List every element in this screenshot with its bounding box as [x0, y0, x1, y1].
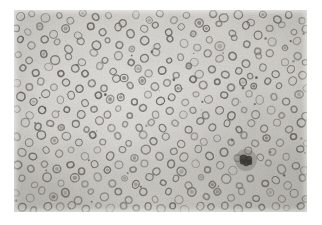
- erythrocyte: [241, 58, 252, 69]
- erythrocyte: [90, 106, 98, 113]
- erythrocyte: [215, 54, 225, 63]
- erythrocyte-stain: [51, 195, 55, 199]
- erythrocyte: [243, 40, 251, 48]
- erythrocyte: [40, 13, 50, 23]
- erythrocyte: [61, 131, 71, 140]
- erythrocyte: [259, 63, 267, 71]
- erythrocyte: [93, 146, 102, 154]
- erythrocyte: [43, 173, 52, 182]
- erythrocyte: [26, 83, 33, 90]
- erythrocyte: [227, 138, 235, 146]
- platelet-speck: [88, 159, 90, 161]
- erythrocyte-stain: [179, 169, 183, 174]
- erythrocyte: [37, 105, 46, 114]
- erythrocyte: [158, 66, 166, 74]
- erythrocyte: [14, 132, 21, 142]
- erythrocyte: [231, 97, 240, 107]
- erythrocyte: [104, 202, 116, 212]
- erythrocyte: [57, 70, 65, 78]
- erythrocyte: [143, 90, 152, 99]
- erythrocyte: [220, 91, 228, 98]
- erythrocyte: [115, 188, 122, 195]
- erythrocyte: [176, 139, 186, 149]
- erythrocyte-stain: [63, 191, 67, 195]
- erythrocyte: [160, 179, 167, 186]
- platelet-speck: [201, 109, 202, 110]
- erythrocyte: [133, 205, 139, 211]
- platelet-speck: [255, 76, 258, 79]
- erythrocyte: [173, 72, 180, 78]
- platelet-speck: [240, 101, 241, 102]
- platelet-speck: [279, 205, 280, 206]
- erythrocyte: [94, 91, 102, 99]
- erythrocyte: [40, 35, 50, 44]
- erythrocyte: [191, 133, 198, 141]
- erythrocyte: [36, 130, 46, 140]
- erythrocyte: [282, 98, 290, 106]
- erythrocyte: [74, 84, 84, 94]
- erythrocyte: [67, 91, 75, 100]
- erythrocyte: [145, 173, 154, 182]
- erythrocyte: [78, 168, 84, 175]
- erythrocyte: [207, 123, 217, 133]
- erythrocyte: [161, 132, 171, 142]
- figure-page: Light microscopy photomicrograph of a pe…: [0, 0, 322, 225]
- erythrocyte: [99, 139, 106, 146]
- erythrocyte: [238, 187, 245, 195]
- erythrocyte-stain: [217, 44, 222, 49]
- erythrocyte: [49, 83, 58, 92]
- erythrocyte: [251, 110, 260, 119]
- erythrocyte: [31, 69, 40, 77]
- erythrocyte: [165, 187, 173, 195]
- erythrocyte: [207, 203, 215, 211]
- platelet-speck: [91, 201, 93, 203]
- erythrocyte-stain: [141, 79, 144, 83]
- erythrocyte: [277, 194, 286, 203]
- erythrocyte: [115, 105, 121, 112]
- erythrocyte-stain: [211, 183, 214, 186]
- erythrocyte: [138, 103, 147, 112]
- erythrocyte: [93, 172, 103, 183]
- erythrocyte: [258, 203, 266, 211]
- platelet-speck: [15, 199, 18, 202]
- erythrocyte: [179, 204, 190, 212]
- erythrocyte: [18, 174, 26, 182]
- erythrocyte-stain: [130, 47, 133, 50]
- erythrocyte: [276, 163, 287, 174]
- erythrocyte: [297, 146, 305, 153]
- erythrocyte: [98, 28, 107, 37]
- erythrocyte: [152, 111, 159, 119]
- erythrocyte: [156, 204, 166, 212]
- platelet-speck: [218, 186, 219, 187]
- erythrocyte: [37, 77, 45, 85]
- erythrocyte: [150, 81, 161, 92]
- erythrocyte: [53, 38, 61, 46]
- erythrocyte: [42, 146, 51, 155]
- platelet-speck: [254, 103, 256, 105]
- erythrocyte: [284, 125, 293, 134]
- erythrocyte: [214, 79, 220, 85]
- erythrocyte: [88, 131, 96, 140]
- erythrocyte: [87, 79, 97, 89]
- erythrocyte: [21, 118, 30, 127]
- erythrocyte-stain: [148, 19, 152, 22]
- erythrocyte: [16, 35, 24, 43]
- erythrocyte: [114, 160, 123, 169]
- erythrocyte: [155, 10, 164, 18]
- erythrocyte: [30, 181, 38, 189]
- erythrocyte-stain: [265, 136, 268, 140]
- erythrocyte-group: [14, 10, 307, 212]
- erythrocyte: [271, 70, 279, 78]
- erythrocyte: [130, 167, 137, 173]
- erythrocyte: [63, 106, 70, 113]
- erythrocyte: [281, 58, 289, 66]
- erythrocyte: [145, 69, 153, 77]
- erythrocyte-stain: [81, 11, 84, 14]
- erythrocyte: [140, 144, 151, 155]
- erythrocyte: [28, 152, 37, 161]
- erythrocyte: [77, 58, 87, 67]
- erythrocyte: [247, 175, 254, 182]
- erythrocyte: [222, 202, 229, 209]
- erythrocyte: [40, 88, 51, 99]
- erythrocyte: [267, 106, 275, 114]
